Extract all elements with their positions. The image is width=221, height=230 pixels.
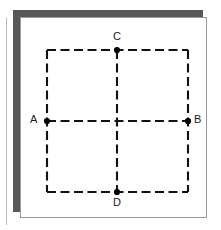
figure-canvas: A B C D [0, 0, 221, 230]
point-label-b: B [194, 114, 201, 125]
point-label-d: D [113, 197, 121, 208]
point-marker-a [44, 118, 50, 124]
point-label-a: A [30, 114, 37, 125]
point-marker-c [114, 47, 120, 53]
point-label-c: C [113, 31, 121, 42]
point-marker-d [114, 189, 120, 195]
point-marker-b [185, 118, 191, 124]
